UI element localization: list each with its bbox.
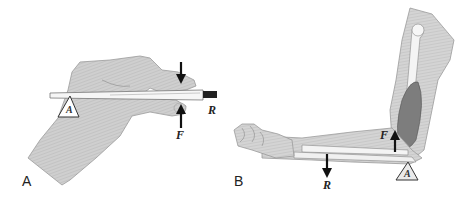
- hand-shape: [28, 56, 196, 185]
- resistance-label-b: R: [323, 178, 331, 193]
- panel-label-b: B: [234, 173, 243, 189]
- resistance-label-a: R: [208, 103, 216, 118]
- panel-a-hand-pen: A R F A: [0, 0, 232, 203]
- hand-illustration: [0, 0, 232, 203]
- panel-label-a: A: [22, 173, 31, 189]
- force-label-a: F: [176, 128, 184, 143]
- fulcrum-label-b: A: [404, 168, 411, 179]
- panel-b-forearm: F R A B: [232, 0, 464, 203]
- arm-illustration: [232, 0, 464, 203]
- pen-tip: [203, 91, 217, 98]
- force-label-b: F: [380, 128, 388, 143]
- fulcrum-label-a: A: [66, 104, 73, 115]
